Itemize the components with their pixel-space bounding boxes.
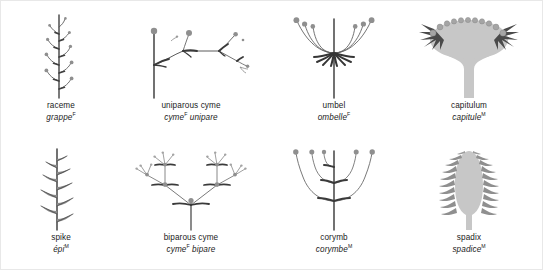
capitulum-gender-mark: M <box>481 111 485 117</box>
figure-corymb[interactable]: corymb corymbeM <box>273 143 395 254</box>
spadix-axis <box>455 151 483 230</box>
raceme-label-fr-text: grappe <box>46 112 72 121</box>
biparous-cyme-labels: biparous cyme cymeF bipare <box>164 233 219 254</box>
figure-umbel[interactable]: umbel ombelleF <box>273 7 395 122</box>
spike-label-en: spike <box>51 233 71 243</box>
umbel-label-en: umbel <box>318 101 351 111</box>
uniparous-cyme-labels: uniparous cyme cymeF unipare <box>161 101 220 122</box>
figure-biparous-cyme[interactable]: biparous cyme cymeF bipare <box>121 143 261 254</box>
biparous-cyme-label-fr-text: cyme <box>167 244 187 253</box>
spadix-illustration <box>401 143 537 231</box>
capitulum-label-fr-text: capitule <box>452 112 481 121</box>
capitulum-label-en: capitulum <box>451 101 487 111</box>
capitulum-labels: capitulum capituleM <box>451 101 487 122</box>
raceme-illustration <box>9 7 113 99</box>
uniparous-cyme-label-fr: cymeF unipare <box>161 111 220 122</box>
inflorescence-plate: raceme grappeF <box>0 0 543 270</box>
spike-illustration <box>9 143 113 231</box>
spike-label-fr-text: épi <box>53 244 64 253</box>
umbel-labels: umbel ombelleF <box>318 101 351 122</box>
spike-labels: spike épiM <box>51 233 71 254</box>
spike-label-fr: épiM <box>51 243 71 254</box>
umbel-illustration <box>273 7 395 99</box>
figure-spike[interactable]: spike épiM <box>9 143 113 254</box>
biparous-cyme-illustration <box>121 143 261 231</box>
uniparous-cyme-gender-mark: F <box>184 111 187 117</box>
biparous-cyme-gender-mark: F <box>187 243 190 249</box>
uniparous-cyme-illustration <box>121 7 261 99</box>
corymb-label-fr: corymbeM <box>316 243 352 254</box>
biparous-cyme-label-fr-suffix: bipare <box>192 244 215 253</box>
figure-capitulum[interactable]: capitulum capituleM <box>401 7 537 122</box>
corymb-labels: corymb corymbeM <box>316 233 352 254</box>
raceme-label-en: raceme <box>46 101 75 111</box>
figure-uniparous-cyme[interactable]: uniparous cyme cymeF unipare <box>121 7 261 122</box>
uniparous-cyme-label-fr-text: cyme <box>164 112 184 121</box>
uniparous-cyme-label-en: uniparous cyme <box>161 101 220 111</box>
raceme-labels: raceme grappeF <box>46 101 75 122</box>
spike-gender-mark: M <box>64 243 68 249</box>
uniparous-cyme-label-fr-suffix: unipare <box>190 112 218 121</box>
corymb-label-en: corymb <box>316 233 352 243</box>
spadix-label-en: spadix <box>452 233 485 243</box>
capitulum-label-fr: capituleM <box>451 111 487 122</box>
biparous-cyme-label-en: biparous cyme <box>164 233 219 243</box>
spadix-label-fr-text: spadice <box>452 244 481 253</box>
spadix-labels: spadix spadiceM <box>452 233 485 254</box>
spadix-gender-mark: M <box>481 243 485 249</box>
figure-raceme[interactable]: raceme grappeF <box>9 7 113 122</box>
capitulum-illustration <box>401 7 537 99</box>
umbel-gender-mark: F <box>347 111 350 117</box>
capitulum-peduncle <box>447 55 491 98</box>
umbel-label-fr-text: ombelle <box>318 112 347 121</box>
corymb-illustration <box>273 143 395 231</box>
biparous-cyme-label-fr: cymeF bipare <box>164 243 219 254</box>
corymb-gender-mark: M <box>348 243 352 249</box>
raceme-gender-mark: F <box>72 111 75 117</box>
raceme-label-fr: grappeF <box>46 111 75 122</box>
figure-spadix[interactable]: spadix spadiceM <box>401 143 537 254</box>
umbel-label-fr: ombelleF <box>318 111 351 122</box>
spadix-label-fr: spadiceM <box>452 243 485 254</box>
corymb-label-fr-text: corymbe <box>316 244 348 253</box>
